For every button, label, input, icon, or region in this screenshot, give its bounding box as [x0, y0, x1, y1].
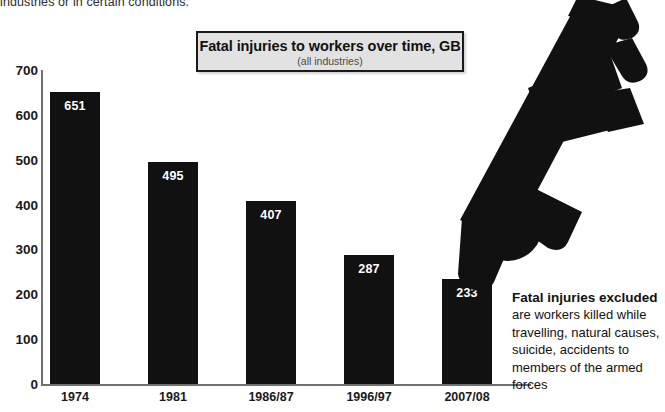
excluded-injuries-note-rest: are workers killed while travelling, nat… [512, 307, 659, 392]
y-axis-tick-label: 600 [2, 107, 38, 122]
excluded-injuries-note-bold: Fatal injuries excluded [512, 290, 658, 305]
y-axis-tick-label: 500 [2, 152, 38, 167]
y-axis-tick-label: 700 [2, 63, 38, 78]
bar-value-label: 233 [442, 286, 492, 300]
x-axis-tick-label: 1974 [36, 390, 114, 404]
bar-value-label: 407 [246, 208, 296, 222]
bar[interactable]: 407 [246, 201, 296, 384]
chart-title: Fatal injuries to workers over time, GB [198, 38, 462, 54]
x-axis-tick-label: 1986/87 [232, 390, 310, 404]
excluded-injuries-note: Fatal injuries excluded are workers kill… [512, 289, 662, 393]
x-axis-tick-label: 1981 [134, 390, 212, 404]
y-axis-tick-label: 300 [2, 242, 38, 257]
y-axis-tick-label: 100 [2, 332, 38, 347]
chart-title-box: Fatal injuries to workers over time, GB … [196, 31, 464, 72]
x-axis-tick-label: 1996/97 [330, 390, 408, 404]
chart-subtitle: (all industries) [198, 55, 462, 67]
y-axis-tick-label: 400 [2, 197, 38, 212]
bar[interactable]: 287 [344, 255, 394, 384]
y-axis-tick-label: 0 [2, 377, 38, 392]
bar-value-label: 287 [344, 262, 394, 276]
fatal-injuries-bar-chart: 0100200300400500600700 651495407287233 1… [0, 0, 665, 412]
falling-worker-pictogram [432, 0, 665, 292]
bar-value-label: 651 [50, 99, 100, 113]
y-axis-line [41, 70, 43, 385]
x-axis-tick-label: 2007/08 [428, 390, 506, 404]
bar-value-label: 495 [148, 169, 198, 183]
bar[interactable]: 495 [148, 162, 198, 384]
bar[interactable]: 233 [442, 279, 492, 384]
y-axis-tick-label: 200 [2, 287, 38, 302]
bar[interactable]: 651 [50, 92, 100, 384]
x-axis-line [41, 384, 531, 386]
